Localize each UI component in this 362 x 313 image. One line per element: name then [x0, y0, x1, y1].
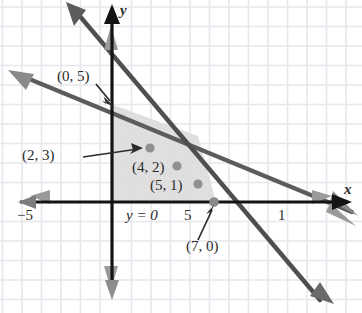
point-4-2 — [172, 161, 181, 170]
point-2-3 — [145, 143, 154, 152]
label-point-0-5: (0, 5) — [57, 69, 90, 84]
x-axis-label: x — [344, 182, 352, 197]
y-axis-label: y — [120, 3, 127, 18]
label-point-2-3: (2, 3) — [22, 148, 55, 163]
point-5-1 — [193, 179, 202, 188]
label-point-5-1: (5, 1) — [150, 178, 183, 193]
label-point-7-0: (7, 0) — [186, 239, 219, 254]
line-label-y-equals-0: y = 0 — [126, 208, 158, 223]
x-tick-label-5: 5 — [184, 208, 192, 223]
graph-figure: (0, 5) (2, 3) (4, 2) (5, 1) (7, 0) −5 y … — [0, 0, 362, 313]
point-7-0 — [209, 197, 219, 207]
x-tick-label-neg5: −5 — [17, 208, 33, 223]
label-point-4-2: (4, 2) — [132, 160, 165, 175]
x-tick-label-10: 1 — [278, 208, 286, 223]
